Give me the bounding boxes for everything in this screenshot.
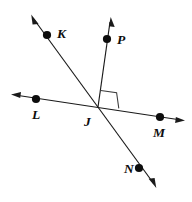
point-label-P: P xyxy=(117,32,126,47)
point-label-J: J xyxy=(83,114,92,129)
geometry-canvas: K P L J M N xyxy=(0,0,192,202)
point-L-dot xyxy=(32,95,40,103)
geometry-diagram: K P L J M N xyxy=(0,0,192,202)
point-M-dot xyxy=(156,113,164,121)
point-label-N: N xyxy=(123,161,135,176)
point-N-dot xyxy=(135,164,143,172)
point-label-M: M xyxy=(152,125,166,140)
point-K-dot xyxy=(43,31,51,39)
point-P-dot xyxy=(103,35,111,43)
point-label-L: L xyxy=(31,107,40,122)
point-label-K: K xyxy=(56,26,67,41)
diagram-background xyxy=(0,0,192,202)
